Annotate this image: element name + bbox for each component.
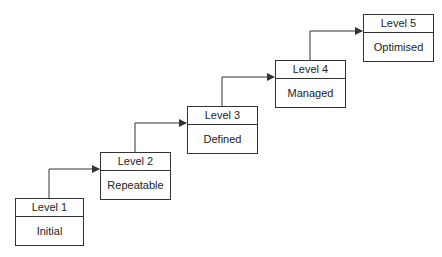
level-4-label: Level 4 <box>276 61 345 79</box>
level-2-name: Repeatable <box>101 171 170 199</box>
arrow-level3-to-level4 <box>222 77 274 106</box>
level-2-label: Level 2 <box>101 153 170 171</box>
level-3-name: Defined <box>188 125 257 153</box>
level-2-box: Level 2 Repeatable <box>100 152 171 200</box>
level-1-box: Level 1 Initial <box>15 198 84 246</box>
level-3-label: Level 3 <box>188 107 257 125</box>
level-5-label: Level 5 <box>364 15 433 33</box>
level-5-box: Level 5 Optimised <box>363 14 434 62</box>
level-5-name: Optimised <box>364 33 433 61</box>
level-4-box: Level 4 Managed <box>275 60 346 108</box>
arrow-level4-to-level5 <box>310 31 362 60</box>
level-1-name: Initial <box>16 217 83 245</box>
arrow-level1-to-level2 <box>49 169 99 198</box>
level-3-box: Level 3 Defined <box>187 106 258 154</box>
arrow-level2-to-level3 <box>135 123 186 152</box>
level-1-label: Level 1 <box>16 199 83 217</box>
level-4-name: Managed <box>276 79 345 107</box>
